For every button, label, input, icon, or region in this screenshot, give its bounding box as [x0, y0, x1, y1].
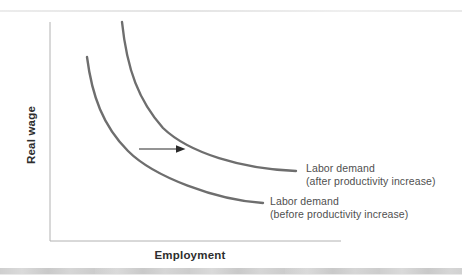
after-curve-label-line2: (after productivity increase) [306, 175, 436, 187]
rightward-shift-arrow [139, 145, 186, 152]
arrow-head-icon [176, 145, 186, 152]
after-curve-label-line1: Labor demand [306, 162, 375, 174]
before-curve-label-line1: Labor demand [270, 195, 339, 207]
before-curve-label-line2: (before productivity increase) [270, 208, 408, 220]
x-axis-label: Employment [154, 249, 225, 261]
y-axis-label: Real wage [25, 106, 37, 164]
bottom-page-edge [0, 268, 462, 275]
labor-demand-figure: Labor demand (after productivity increas… [0, 0, 462, 277]
labor-demand-before-curve [87, 57, 263, 203]
labor-demand-chart: Labor demand (after productivity increas… [0, 0, 462, 277]
